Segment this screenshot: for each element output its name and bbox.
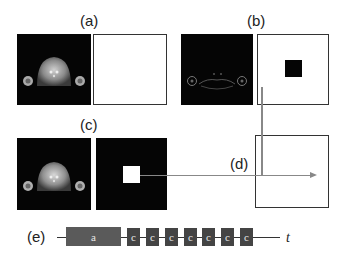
- panel-c-roi-square: [123, 166, 140, 183]
- panel-c-mri-image: [17, 138, 91, 210]
- timeline-block-c: c: [146, 228, 159, 246]
- timeline-block-c: c: [165, 228, 178, 246]
- panel-c-label: (c): [80, 117, 98, 132]
- timeline-block-c: c: [202, 228, 215, 246]
- horizontal-arrow-line: [140, 175, 312, 177]
- vertical-connector-line: [261, 87, 263, 175]
- panel-b-roi-square: [285, 60, 302, 77]
- panel-a-mask: [93, 34, 167, 105]
- timeline-label: (e): [27, 229, 45, 244]
- timeline-block-c: c: [221, 228, 234, 246]
- panel-b-mri-edge-image: [181, 34, 253, 105]
- arrowhead-icon: [310, 171, 318, 179]
- timeline-block-c: c: [127, 228, 140, 246]
- panel-a-mri-image: [17, 34, 91, 105]
- timeline-block-c: c: [184, 228, 197, 246]
- panel-a-label: (a): [80, 13, 98, 28]
- timeline-block-c: c: [240, 228, 253, 246]
- timeline-block-a: a: [66, 227, 121, 246]
- time-axis-label: t: [286, 230, 290, 246]
- panel-d-label: (d): [230, 156, 248, 171]
- panel-b-label: (b): [247, 13, 265, 28]
- panel-b-mask: [257, 34, 329, 105]
